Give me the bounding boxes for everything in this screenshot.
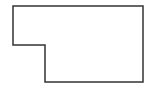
l-shaped-polygon-diagram	[0, 0, 149, 95]
diagram-canvas	[0, 0, 149, 95]
l-shaped-polygon-outline	[13, 6, 143, 82]
